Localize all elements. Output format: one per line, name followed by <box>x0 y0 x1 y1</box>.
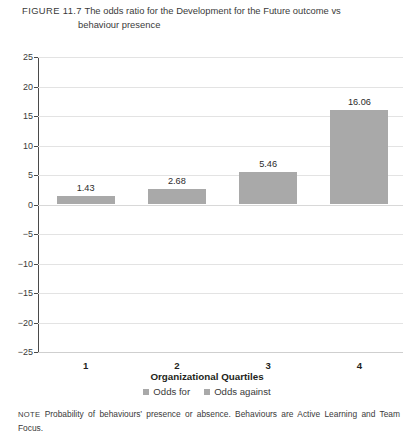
figure-caption-line-2: behaviour presence <box>78 18 404 32</box>
figure-note: NOTE Probability of behaviours’ presence… <box>18 408 400 434</box>
y-axis-tick-label: −15 <box>18 288 33 298</box>
note-label: NOTE <box>18 410 40 419</box>
bar-group: 1.431 <box>57 57 115 352</box>
y-axis-tick-label: −5 <box>23 229 33 239</box>
bar-value-label: 5.46 <box>233 159 303 169</box>
bar-value-label: 1.43 <box>51 183 121 193</box>
bar[interactable] <box>239 172 297 204</box>
figure-caption: FIGURE 11.7 The odds ratio for the Devel… <box>22 4 404 32</box>
y-axis-tick-label: −25 <box>18 347 33 357</box>
legend-label: Odds against <box>214 386 271 397</box>
y-axis-tick-label: 5 <box>28 170 33 180</box>
bar-series-odds-for: 1.4312.6825.46316.064 <box>38 57 403 352</box>
legend-item[interactable]: Odds against <box>204 386 271 397</box>
y-axis-tick-label: 25 <box>23 52 33 62</box>
y-axis-tick-label: −20 <box>18 318 33 328</box>
legend-label: Odds for <box>153 386 190 397</box>
bar[interactable] <box>57 196 115 204</box>
x-axis-tick-label: 3 <box>233 360 303 371</box>
x-axis-tick-label: 4 <box>324 360 394 371</box>
bar[interactable] <box>148 189 206 205</box>
legend-swatch-icon <box>143 389 149 395</box>
y-axis-tick-label: 10 <box>23 141 33 151</box>
bar-group: 5.463 <box>239 57 297 352</box>
chart-legend: Odds forOdds against <box>0 386 414 397</box>
y-axis-tick-label: 20 <box>23 82 33 92</box>
bar-value-label: 2.68 <box>142 176 212 186</box>
note-text: Probability of behaviours’ presence or a… <box>18 409 400 433</box>
x-axis-tick-label: 1 <box>51 360 121 371</box>
bar-chart: 2520151050−5−10−15−20−25 1.4312.6825.463… <box>0 40 414 370</box>
figure-caption-line-1: The odds ratio for the Development for t… <box>84 5 340 16</box>
bar-value-label: 16.06 <box>324 97 394 107</box>
figure-label: FIGURE 11.7 <box>22 5 82 16</box>
bar[interactable] <box>330 110 388 205</box>
legend-item[interactable]: Odds for <box>143 386 190 397</box>
y-axis-tick-label: 15 <box>23 111 33 121</box>
bar-group: 2.682 <box>148 57 206 352</box>
bar-group: 16.064 <box>330 57 388 352</box>
y-axis-tick-label: −10 <box>18 259 33 269</box>
y-axis-tick-label: 0 <box>28 200 33 210</box>
y-axis-tick-mark <box>34 352 38 353</box>
gridline: −25 <box>38 352 403 353</box>
x-axis-tick-label: 2 <box>142 360 212 371</box>
legend-swatch-icon <box>204 389 210 395</box>
x-axis-title: Organizational Quartiles <box>0 371 414 382</box>
